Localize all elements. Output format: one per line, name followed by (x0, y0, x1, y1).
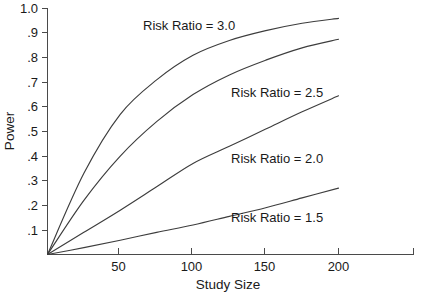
x-tick-label-50: 50 (111, 259, 125, 274)
annotation-risk-ratio-2-5: Risk Ratio = 2.5 (231, 85, 323, 100)
annotation-risk-ratio-3-0: Risk Ratio = 3.0 (143, 18, 235, 33)
y-tick-label-0.6: .6 (27, 99, 38, 114)
x-axis-ticks (119, 248, 414, 255)
annotation-risk-ratio-2-0: Risk Ratio = 2.0 (231, 151, 323, 166)
y-tick-label-0.1: .1 (27, 223, 38, 238)
y-tick-label-1.0: 1.0 (20, 1, 38, 16)
y-tick-label-0.2: .2 (27, 198, 38, 213)
y-tick-label-0.5: .5 (27, 124, 38, 139)
y-tick-label-0.7: .7 (27, 75, 38, 90)
y-tick-label-0.3: .3 (27, 173, 38, 188)
y-axis-ticks (42, 9, 48, 231)
curve-risk-ratio-2-0 (48, 96, 339, 255)
x-axis-tick-labels: 50 100 150 200 (111, 259, 349, 274)
y-tick-label-0.4: .4 (27, 149, 38, 164)
y-axis-tick-labels: 1.0 .9 .8 .7 .6 .5 .4 .3 .2 .1 (20, 1, 38, 238)
chart-canvas: 1.0 .9 .8 .7 .6 .5 .4 .3 .2 .1 50 100 15… (0, 0, 423, 295)
y-tick-label-0.8: .8 (27, 50, 38, 65)
power-curve-figure: 1.0 .9 .8 .7 .6 .5 .4 .3 .2 .1 50 100 15… (0, 0, 423, 295)
x-tick-label-200: 200 (328, 259, 350, 274)
annotation-risk-ratio-1-5: Risk Ratio = 1.5 (231, 210, 323, 225)
y-axis-title: Power (2, 111, 17, 150)
x-axis-title: Study Size (196, 277, 261, 292)
y-tick-label-0.9: .9 (27, 25, 38, 40)
x-tick-label-150: 150 (254, 259, 276, 274)
x-tick-label-100: 100 (181, 259, 203, 274)
series-annotations: Risk Ratio = 3.0 Risk Ratio = 2.5 Risk R… (143, 18, 323, 225)
